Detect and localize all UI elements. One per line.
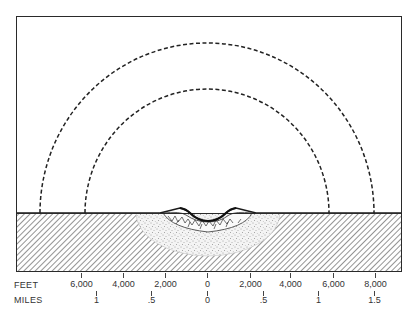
feet-tick-mark [207, 273, 208, 278]
feet-tick-mark [123, 273, 124, 278]
feet-tick-mark [290, 273, 291, 278]
feet-tick-label: 4,000 [279, 279, 302, 289]
feet-tick-label: 0 [205, 279, 210, 289]
feet-tick-label: 2,000 [239, 279, 262, 289]
miles-tick-label: 1 [316, 295, 321, 305]
feet-tick-label: 6,000 [322, 279, 345, 289]
miles-tick-label: 0 [205, 295, 210, 305]
miles-tick-label: .5 [260, 295, 268, 305]
miles-tick-label: 1.5 [368, 295, 381, 305]
miles-tick-label: 1 [94, 295, 99, 305]
feet-tick-mark [165, 273, 166, 278]
miles-tick-label: .5 [148, 295, 156, 305]
feet-tick-mark [250, 273, 251, 278]
feet-tick-mark [375, 273, 376, 278]
feet-tick-label: 2,000 [154, 279, 177, 289]
miles-axis-label: MILES [14, 295, 43, 305]
feet-tick-label: 8,000 [364, 279, 387, 289]
feet-tick-label: 4,000 [112, 279, 135, 289]
feet-tick-mark [81, 273, 82, 278]
feet-tick-label: 6,000 [70, 279, 93, 289]
feet-tick-mark [333, 273, 334, 278]
feet-axis-label: FEET [14, 280, 38, 290]
